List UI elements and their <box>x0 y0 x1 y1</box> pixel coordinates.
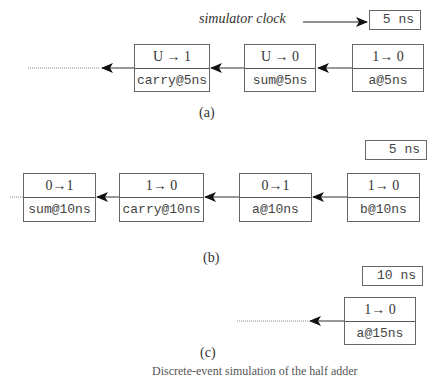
event-transition: 1→ 0 <box>353 45 423 69</box>
event-box-carry: U → 1 carry@5ns <box>134 44 210 92</box>
clock-value-box: 5 ns <box>369 10 421 30</box>
event-box-a: 1→ 0 a@5ns <box>352 44 424 92</box>
event-box-a: 1→ 0 a@15ns <box>344 297 416 345</box>
event-signal: carry@10ns <box>120 198 203 221</box>
panel-caption-b: (b) <box>203 250 219 266</box>
event-transition: U → 0 <box>245 45 315 69</box>
panel-caption-c: (c) <box>200 345 216 361</box>
event-signal: a@10ns <box>240 198 311 221</box>
event-box-b: 1→ 0 b@10ns <box>347 173 420 222</box>
event-signal: b@10ns <box>348 198 419 221</box>
figure-caption: Discrete-event simulation of the half ad… <box>152 364 358 379</box>
event-signal: a@15ns <box>345 322 415 345</box>
event-signal: carry@5ns <box>135 69 209 92</box>
event-transition: 0→1 <box>240 174 311 198</box>
event-box-carry: 1→ 0 carry@10ns <box>119 173 204 222</box>
event-signal: a@5ns <box>353 69 423 92</box>
event-signal: sum@10ns <box>24 198 95 221</box>
simulator-clock-label: simulator clock <box>199 11 286 27</box>
clock-value-box: 10 ns <box>362 266 423 286</box>
event-box-sum: 0→1 sum@10ns <box>23 173 96 222</box>
panel-caption-a: (a) <box>199 105 215 121</box>
event-transition: 1→ 0 <box>348 174 419 198</box>
event-transition: U → 1 <box>135 45 209 69</box>
clock-value-box: 5 ns <box>365 140 427 160</box>
event-signal: sum@5ns <box>245 69 315 92</box>
event-box-a: 0→1 a@10ns <box>239 173 312 222</box>
event-transition: 1→ 0 <box>120 174 203 198</box>
event-transition: 0→1 <box>24 174 95 198</box>
event-transition: 1→ 0 <box>345 298 415 322</box>
event-box-sum: U → 0 sum@5ns <box>244 44 316 92</box>
